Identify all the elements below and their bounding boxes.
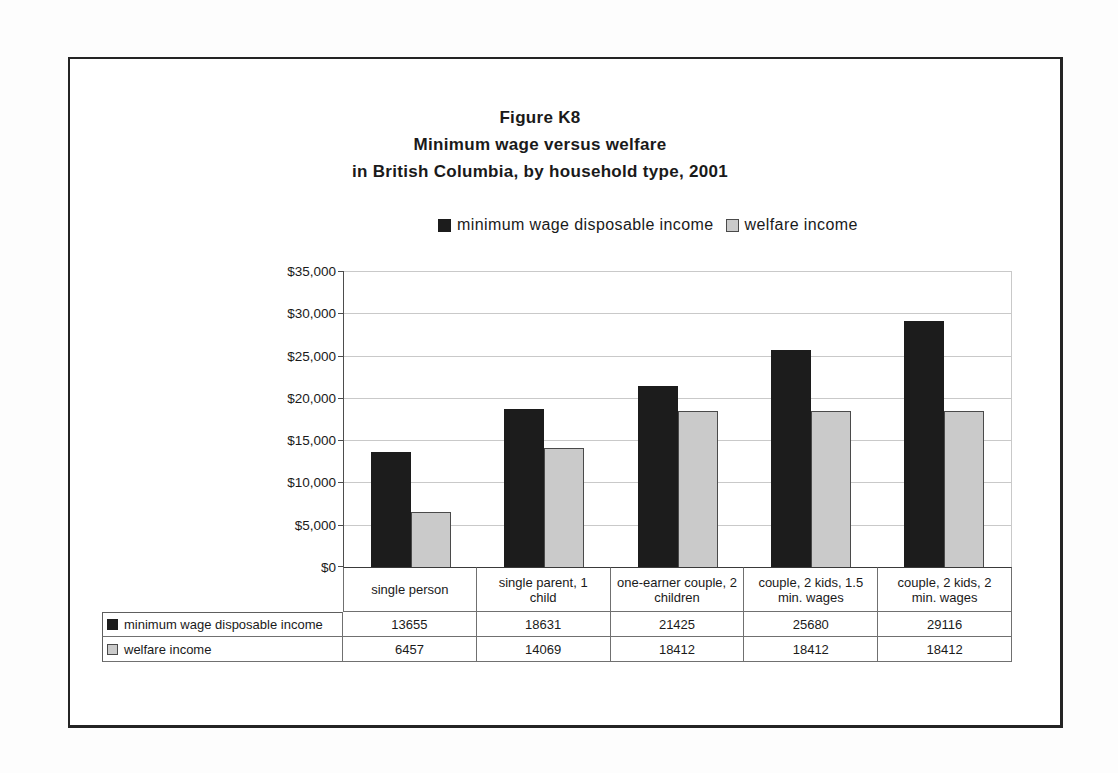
bar-series-2 (411, 512, 451, 567)
table-value-cell: 21425 (611, 612, 745, 637)
y-axis-label: $25,000 (287, 349, 336, 364)
bar-series-1 (771, 350, 811, 567)
bar-group (371, 271, 451, 567)
table-row-label-text: minimum wage disposable income (124, 617, 323, 632)
y-axis-tick (338, 525, 343, 526)
table-category-header-line: min. wages (778, 590, 844, 605)
y-axis-tick (338, 440, 343, 441)
table-value-cell: 18412 (611, 637, 745, 662)
figure-frame: Figure K8 Minimum wage versus welfare in… (68, 57, 1063, 728)
legend-swatch-icon (438, 219, 451, 232)
y-axis-tick (338, 398, 343, 399)
table-category-header-line: couple, 2 kids, 1.5 (758, 575, 863, 590)
y-axis-label: $15,000 (287, 433, 336, 448)
y-axis-tick (338, 356, 343, 357)
table-row-swatch-icon (107, 619, 118, 630)
table-value-cell: 18412 (878, 637, 1012, 662)
table-category-header: couple, 2 kids, 2min. wages (878, 567, 1012, 612)
bar-series-1 (638, 386, 678, 567)
table-value-cell: 29116 (878, 612, 1012, 637)
y-axis-label: $35,000 (287, 264, 336, 279)
bar-series-1 (504, 409, 544, 567)
table-value-cell: 6457 (343, 637, 477, 662)
y-axis-label: $20,000 (287, 391, 336, 406)
bar-series-2 (944, 411, 984, 567)
bar-series-1 (371, 452, 411, 567)
data-table: single personsingle parent, 1childone-ea… (102, 567, 1012, 662)
legend-item-1: minimum wage disposable income (438, 216, 714, 234)
table-category-header-line: min. wages (912, 590, 978, 605)
bar-group (771, 271, 851, 567)
legend-swatch-icon (726, 219, 739, 232)
table-row-label-text: welfare income (124, 642, 211, 657)
table-value-cell: 25680 (744, 612, 878, 637)
bar-group (904, 271, 984, 567)
table-value-cell: 13655 (343, 612, 477, 637)
legend-label: welfare income (745, 216, 858, 234)
table-category-header: one-earner couple, 2children (611, 567, 745, 612)
table-category-header-line: children (654, 590, 700, 605)
table-row-label: minimum wage disposable income (102, 612, 343, 637)
y-axis-tick (338, 482, 343, 483)
table-value-cell: 18412 (744, 637, 878, 662)
table-category-header-line: single person (371, 582, 448, 597)
y-axis-label: $10,000 (287, 475, 336, 490)
table-row-label: welfare income (102, 637, 343, 662)
bar-group (638, 271, 718, 567)
y-axis-tick (338, 313, 343, 314)
chart-title-line-2: Minimum wage versus welfare (70, 131, 1010, 158)
table-category-header-line: one-earner couple, 2 (617, 575, 737, 590)
table-category-header: single parent, 1child (477, 567, 611, 612)
bar-series-2 (811, 411, 851, 567)
table-value-cell: 14069 (477, 637, 611, 662)
bar-group (504, 271, 584, 567)
table-category-header-line: child (530, 590, 557, 605)
table-value-cell: 18631 (477, 612, 611, 637)
y-axis-tick (338, 271, 343, 272)
y-axis-label: $5,000 (295, 518, 336, 533)
chart-legend: minimum wage disposable incomewelfare in… (438, 216, 858, 234)
table-category-header-line: single parent, 1 (499, 575, 588, 590)
table-category-header-line: couple, 2 kids, 2 (898, 575, 992, 590)
legend-label: minimum wage disposable income (457, 216, 714, 234)
table-corner-cell (102, 567, 343, 612)
plot-area (343, 271, 1012, 567)
y-axis: $35,000$30,000$25,000$20,000$15,000$10,0… (70, 271, 336, 567)
table-category-header: couple, 2 kids, 1.5min. wages (744, 567, 878, 612)
page-background: Figure K8 Minimum wage versus welfare in… (0, 0, 1118, 773)
y-axis-label: $30,000 (287, 306, 336, 321)
legend-item-2: welfare income (726, 216, 858, 234)
chart-title: Figure K8 Minimum wage versus welfare in… (70, 104, 1010, 185)
table-category-header: single person (343, 567, 477, 612)
chart-title-line-3: in British Columbia, by household type, … (70, 158, 1010, 185)
bar-series-2 (544, 448, 584, 567)
chart-title-line-1: Figure K8 (70, 104, 1010, 131)
bar-series-2 (678, 411, 718, 567)
bar-series-1 (904, 321, 944, 567)
table-row-swatch-icon (107, 644, 118, 655)
